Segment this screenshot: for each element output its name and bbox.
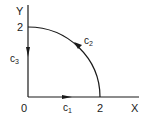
curve-label-c2: c2: [84, 36, 93, 47]
arrow-down-icon: [26, 47, 30, 57]
curve-label-sub: 2: [89, 40, 93, 47]
y-tick-2: 2: [17, 22, 23, 33]
curve-label-sub: 3: [15, 58, 19, 65]
y-axis-label: Y: [16, 6, 23, 17]
curve-label-c1: c1: [63, 103, 72, 114]
curve-label-c3: c3: [10, 54, 19, 65]
arrow-right-icon: [62, 95, 72, 99]
origin-label: 0: [21, 103, 27, 114]
x-tick-2: 2: [97, 103, 103, 114]
diagram-canvas: [0, 0, 149, 116]
closed-path-diagram: Y 2 X 2 0 c1 c2 c3: [0, 0, 149, 116]
curve-label-sub: 1: [68, 107, 72, 114]
arrow-arc-icon: [74, 42, 82, 49]
x-axis-label: X: [131, 103, 138, 114]
